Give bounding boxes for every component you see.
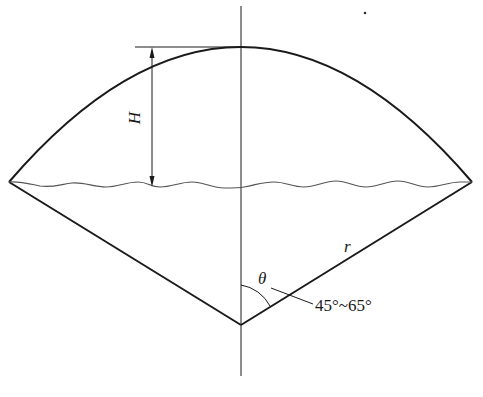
- arrow-up-icon: [150, 47, 155, 58]
- radius-label: r: [344, 237, 351, 256]
- stray-dot: [364, 12, 367, 15]
- cone-shell-diagram: H θ 45°~65° r: [0, 0, 483, 397]
- angle-range-label: 45°~65°: [315, 296, 372, 315]
- height-label: H: [125, 110, 144, 125]
- angle-label: θ: [258, 269, 266, 288]
- angle-arc: [241, 285, 270, 306]
- cone-left-side: [9, 182, 241, 325]
